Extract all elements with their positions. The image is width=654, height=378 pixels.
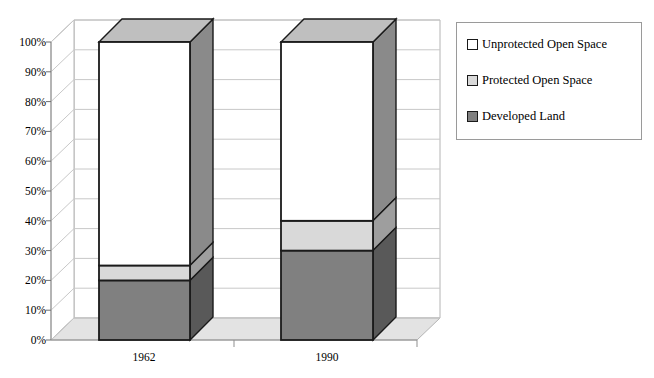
bar-1990-segment-unprotected-open-space bbox=[281, 42, 373, 221]
bar-1962[interactable] bbox=[99, 19, 213, 340]
bar-1962-segment-developed-land bbox=[99, 280, 190, 340]
y-tick-label: 50% bbox=[0, 185, 46, 197]
legend-item-protected-open-space[interactable]: Protected Open Space bbox=[467, 72, 592, 88]
bar-1990-segment-developed-land bbox=[281, 251, 373, 340]
y-tick-label: 10% bbox=[0, 304, 46, 316]
y-tick-label: 90% bbox=[0, 66, 46, 78]
y-tick-label: 20% bbox=[0, 274, 46, 286]
bar-1990-segment-protected-open-space bbox=[281, 221, 373, 251]
legend-label-protected-open-space: Protected Open Space bbox=[482, 73, 592, 87]
bar-1962-segment-unprotected-open-space bbox=[99, 42, 190, 266]
x-tick-label-1990: 1990 bbox=[267, 351, 387, 363]
legend-swatch-unprotected-open-space bbox=[467, 39, 478, 50]
y-tick-label: 0% bbox=[0, 334, 46, 346]
y-tick-label: 70% bbox=[0, 125, 46, 137]
bar-1990[interactable] bbox=[281, 19, 396, 340]
y-tick-label: 60% bbox=[0, 155, 46, 167]
x-tick-label-1962: 1962 bbox=[84, 351, 204, 363]
chart-container: 100% 90% 80% 70% 60% 50% 40% 30% 20% 10%… bbox=[0, 0, 654, 378]
legend-item-unprotected-open-space[interactable]: Unprotected Open Space bbox=[467, 36, 607, 52]
legend-label-unprotected-open-space: Unprotected Open Space bbox=[482, 37, 607, 51]
legend-swatch-developed-land bbox=[467, 111, 478, 122]
bar-1990-side-unprotected bbox=[373, 19, 396, 221]
legend-swatch-protected-open-space bbox=[467, 75, 478, 86]
y-tick-marks bbox=[46, 42, 51, 340]
bar-1962-side-unprotected bbox=[190, 19, 213, 266]
y-tick-label: 30% bbox=[0, 245, 46, 257]
chart-legend: Unprotected Open Space Protected Open Sp… bbox=[456, 22, 642, 140]
y-tick-label: 100% bbox=[0, 36, 46, 48]
y-tick-label: 80% bbox=[0, 96, 46, 108]
y-tick-label: 40% bbox=[0, 215, 46, 227]
legend-label-developed-land: Developed Land bbox=[482, 109, 565, 123]
legend-item-developed-land[interactable]: Developed Land bbox=[467, 108, 565, 124]
x-tick-marks bbox=[234, 340, 417, 347]
bar-1962-segment-protected-open-space bbox=[99, 266, 190, 281]
